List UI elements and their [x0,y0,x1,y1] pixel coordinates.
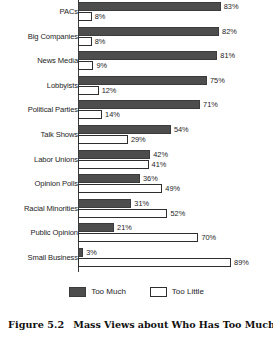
category-label: Opinion Polls [2,176,78,192]
legend-swatch-too-much-icon [69,287,86,297]
category-bars: 3%89% [78,247,273,269]
chart-row-group: News Media81%9% [0,50,273,72]
category-bars: 31%52% [78,198,273,220]
chart-row-group: Lobbyists75%12% [0,75,273,97]
chart-row-group: Public Opinion21%70% [0,222,273,244]
chart-row-group: Racial Minorities31%52% [0,198,273,220]
category-bars: 81%9% [78,50,273,72]
bar-value-label: 75% [210,75,225,86]
bar-value-label: 29% [131,134,146,145]
category-label: Lobbyists [2,78,78,94]
chart-row-group: Big Companies82%8% [0,26,273,48]
bar-value-label: 49% [165,183,180,194]
category-label: PACs [2,4,78,20]
bar-much [78,174,140,183]
bar-much [78,150,150,159]
bar-little [78,37,92,46]
chart-row-group: PACs83%8% [0,1,273,23]
chart-row-group: Labor Unions42%41% [0,149,273,171]
bar-value-label: 41% [152,159,167,170]
bar-value-label: 71% [203,99,218,110]
figure-number: Figure 5.2 [8,318,64,331]
bar-little [78,160,149,169]
bar-value-label: 82% [222,26,237,37]
category-bars: 42%41% [78,149,273,171]
category-bars: 71%14% [78,99,273,121]
bar-much [78,100,200,109]
bar-value-label: 12% [102,85,117,96]
bar-little [78,258,231,267]
bar-little [78,209,167,218]
legend-label-too-much: Too Much [91,287,126,297]
bar-much [78,199,131,208]
figure-caption: Figure 5.2 Mass Views about Who Has Too … [8,318,270,331]
chart-row-group: Talk Shows54%29% [0,124,273,146]
bar-value-label: 31% [134,198,149,209]
bar-value-label: 8% [95,11,106,22]
bar-value-label: 54% [174,124,189,135]
chart-row-group: Opinion Polls36%49% [0,173,273,195]
category-label: Racial Minorities [2,201,78,217]
bar-much [78,27,219,36]
bar-chart: PACs83%8%Big Companies82%8%News Media81%… [0,0,273,280]
legend-swatch-too-little-icon [150,287,167,297]
bar-value-label: 8% [95,36,106,47]
bar-little [78,184,162,193]
category-label: Public Opinion [2,225,78,241]
category-bars: 83%8% [78,1,273,23]
bar-little [78,12,92,21]
bar-little [78,110,102,119]
bar-value-label: 70% [201,232,216,243]
category-label: News Media [2,53,78,69]
bar-little [78,135,128,144]
bar-value-label: 83% [224,1,239,12]
bar-much [78,125,171,134]
figure-container: PACs83%8%Big Companies82%8%News Media81%… [0,0,273,340]
category-bars: 36%49% [78,173,273,195]
category-bars: 82%8% [78,26,273,48]
category-label: Talk Shows [2,127,78,143]
bar-value-label: 81% [220,50,235,61]
bar-much [78,76,207,85]
chart-legend: Too Much Too Little [0,284,273,300]
legend-label-too-little: Too Little [172,287,204,297]
legend-item-too-little: Too Little [150,287,204,297]
bar-little [78,86,99,95]
bar-little [78,233,198,242]
figure-title: Mass Views about Who Has Too Much [73,318,273,331]
bar-value-label: 9% [96,60,107,71]
category-label: Political Parties [2,102,78,118]
chart-row-group: Political Parties71%14% [0,99,273,121]
bar-value-label: 52% [170,208,185,219]
bar-much [78,223,114,232]
bar-value-label: 3% [86,247,97,258]
bar-much [78,2,221,11]
category-bars: 21%70% [78,222,273,244]
bar-value-label: 36% [143,173,158,184]
bar-little [78,61,93,70]
bar-much [78,248,83,257]
category-label: Small Business [2,250,78,266]
legend-item-too-much: Too Much [69,287,126,297]
chart-row-group: Small Business3%89% [0,247,273,269]
bar-value-label: 21% [117,222,132,233]
bar-much [78,51,217,60]
category-label: Big Companies [2,29,78,45]
category-bars: 54%29% [78,124,273,146]
bar-value-label: 89% [234,257,249,268]
category-bars: 75%12% [78,75,273,97]
category-label: Labor Unions [2,152,78,168]
bar-value-label: 14% [105,109,120,120]
